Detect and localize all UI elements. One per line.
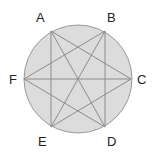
vertex-label-C: C <box>137 72 146 87</box>
vertex-label-B: B <box>107 10 116 25</box>
vertex-label-E: E <box>38 134 47 149</box>
vertex-label-A: A <box>36 10 45 25</box>
vertex-label-F: F <box>9 72 17 87</box>
star-in-circle-diagram: ABCDEF <box>0 0 153 159</box>
vertex-label-D: D <box>107 134 116 149</box>
